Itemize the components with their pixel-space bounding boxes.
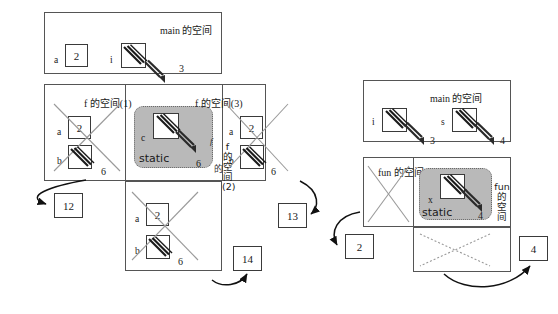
var-label-b-f2: b [135,247,140,257]
value-f1-b: 6 [101,166,106,177]
title-f-space-2-vertical: f 的 空 间 (2) [222,142,233,192]
title-fun-space-vertical: fun 的 空 间 [494,182,510,222]
var-label-a-f2: a [135,215,139,225]
value-box-f3-b [240,145,264,169]
var-label-a-mainleft: a [54,56,58,66]
title-f-space-3: f 的空间(3) [195,95,243,110]
f-space-2-char-4: (2) [222,182,233,192]
result-box-13: 13 [278,203,307,228]
value-main-left-i: 3 [179,63,184,74]
var-label-s-mainright: s [441,118,445,128]
value-box-f1-b [68,145,92,169]
result-box-12: 12 [54,193,83,218]
value-box-f2-b [146,235,170,259]
value-box-f1-a: 2 [68,116,91,139]
value-box-f3-a: 2 [240,116,263,139]
value-box-main-left-a: 2 [65,44,88,67]
result-box-2: 2 [345,234,374,259]
title-main-left: main 的空间 [160,22,213,37]
value-f3-b: 6 [271,166,276,177]
fun-space-char-3: 间 [494,212,510,222]
value-f2-b: 6 [178,256,183,267]
var-label-i-mainleft: i [110,56,113,66]
var-label-i-mainright: i [372,118,375,128]
value-static-left-c: 6 [196,158,201,169]
var-label-x-static: x [428,196,433,206]
value-box-main-right-i [382,108,407,132]
title-f-space-1: f 的空间(1) [84,95,132,110]
value-box-static-left-c [153,113,179,139]
static-label-left: static [139,152,169,165]
var-label-a-f3: a [229,128,233,138]
value-main-right-s: 4 [500,135,505,146]
var-label-c-static: c [141,134,145,144]
arrow-to-14 [212,274,247,285]
value-static-right-x: 4 [478,210,483,221]
value-box-main-left-i [121,43,146,68]
panel-f-row2 [125,181,222,271]
var-label-b-f1: b [57,157,62,167]
result-box-4: 4 [519,236,548,261]
title-main-right: main 的空间 [430,90,483,105]
value-main-right-i: 3 [430,135,435,146]
result-box-14: 14 [233,246,262,271]
panel-fun-row2 [413,227,511,272]
static-label-right: static [422,206,452,219]
diagram-canvas: main 的空间 a 2 i 3 f 的空间(1) a 2 b 6 c stat… [0,0,558,314]
var-label-a-f1: a [57,128,61,138]
value-box-f2-a: 2 [146,203,169,226]
value-box-static-right-x [440,174,465,199]
value-box-main-right-s [452,108,477,132]
